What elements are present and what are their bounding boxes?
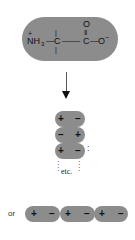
bond-c-c: —— <box>62 37 80 46</box>
carboxyl-carbon: C <box>83 37 90 46</box>
chain-sign: + <box>97 209 107 219</box>
chain-sign: − <box>47 209 57 219</box>
arrow-down-icon <box>66 72 67 92</box>
alpha-carbon: C <box>54 37 61 46</box>
arrow-head-icon <box>62 91 70 99</box>
dots-left: ···· <box>57 160 60 172</box>
chain-sign: + <box>63 209 73 219</box>
etc-label: etc. <box>61 167 72 176</box>
carboxyl-charge: − <box>105 34 109 41</box>
stack-sign: − <box>73 146 83 156</box>
chain-sign: − <box>116 209 126 219</box>
stack-sign: + <box>56 146 66 156</box>
amine-subscript: 3 <box>41 41 44 47</box>
stack-sign: + <box>73 130 83 140</box>
stack-sign: − <box>56 130 66 140</box>
dots-right: ···· <box>78 160 81 172</box>
stack-sign: − <box>73 114 83 124</box>
continuation-dots: : <box>87 147 90 150</box>
or-label: or <box>8 209 15 218</box>
stack-sign: + <box>56 114 66 124</box>
carboxyl-oxygen: O <box>98 37 105 46</box>
amine-group: NH <box>27 37 40 46</box>
chain-sign: + <box>29 209 39 219</box>
alpha-bond-up: | <box>55 29 57 36</box>
chain-sign: − <box>82 209 92 219</box>
alpha-bond-down: | <box>55 46 57 53</box>
